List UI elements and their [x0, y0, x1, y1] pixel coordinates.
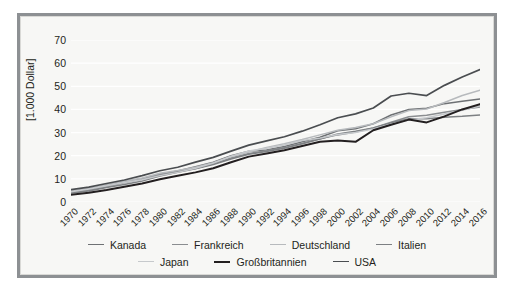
legend-item-deutschland[interactable]: Deutschland: [270, 239, 350, 251]
legend-label: Italien: [398, 239, 426, 251]
y-tick-70: 70: [40, 34, 66, 46]
chart-page: [1.000 Dollar] 010203040506070 197019721…: [0, 0, 511, 297]
legend-item-frankreich[interactable]: Frankreich: [172, 239, 244, 251]
legend-row-1: KanadaFrankreichDeutschlandItalien: [24, 236, 490, 253]
plot-area: [71, 40, 480, 202]
y-tick-10: 10: [40, 173, 66, 185]
chart-lines: [71, 40, 480, 202]
legend-label: Japan: [160, 256, 189, 268]
legend-item-usa[interactable]: USA: [333, 256, 377, 268]
series-line-deutschland: [71, 90, 480, 191]
y-tick-30: 30: [40, 127, 66, 139]
legend-swatch-icon: [270, 244, 286, 245]
y-tick-50: 50: [40, 80, 66, 92]
legend-row-2: JapanGroßbritannienUSA: [24, 253, 490, 270]
legend-label: Großbritannien: [236, 256, 306, 268]
legend-swatch-icon: [88, 244, 104, 245]
legend-swatch-icon: [172, 244, 188, 245]
legend-swatch-icon: [138, 261, 154, 262]
y-tick-60: 60: [40, 57, 66, 69]
y-tick-0: 0: [40, 196, 66, 208]
series-line-usa: [71, 70, 480, 190]
legend-item-kanada[interactable]: Kanada: [88, 239, 146, 251]
legend-label: USA: [355, 256, 377, 268]
legend-item-italien[interactable]: Italien: [376, 239, 426, 251]
y-tick-40: 40: [40, 103, 66, 115]
legend-label: Deutschland: [292, 239, 350, 251]
legend-label: Kanada: [110, 239, 146, 251]
legend-swatch-icon: [214, 261, 230, 263]
y-axis-title: [1.000 Dollar]: [24, 59, 36, 121]
legend-swatch-icon: [376, 244, 392, 245]
legend-item-japan[interactable]: Japan: [138, 256, 189, 268]
y-tick-20: 20: [40, 150, 66, 162]
chart-legend: KanadaFrankreichDeutschlandItalien Japan…: [24, 236, 490, 270]
legend-item-großbritannien[interactable]: Großbritannien: [214, 256, 306, 268]
y-axis-ticks: 010203040506070: [40, 40, 66, 202]
legend-swatch-icon: [333, 261, 349, 262]
legend-label: Frankreich: [194, 239, 244, 251]
